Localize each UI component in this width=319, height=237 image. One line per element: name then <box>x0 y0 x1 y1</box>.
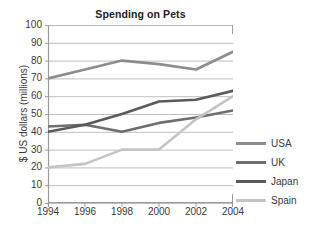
x-axis-tick-labels: 199419961998200020022004 <box>0 207 319 227</box>
series-line-usa <box>48 52 233 79</box>
y-tick-label: 90 <box>8 38 42 48</box>
y-tick-label: 60 <box>8 91 42 101</box>
y-tick-label: 80 <box>8 56 42 66</box>
legend-label: USA <box>271 139 292 149</box>
plot-area <box>48 25 233 203</box>
chart-legend: USAUKJapanSpain <box>236 134 318 210</box>
legend-label: Spain <box>271 196 297 206</box>
x-tick-label: 1996 <box>65 207 105 217</box>
y-axis-tick-labels: 0102030405060708090100 <box>0 0 44 237</box>
y-tick-label: 100 <box>8 20 42 30</box>
x-tick-label: 2002 <box>176 207 216 217</box>
chart-title: Spending on Pets <box>48 8 233 20</box>
legend-swatch-uk-icon <box>236 161 266 164</box>
legend-item-usa[interactable]: USA <box>236 134 318 153</box>
y-tick-label: 40 <box>8 127 42 137</box>
x-tick-label: 2000 <box>139 207 179 217</box>
legend-swatch-japan-icon <box>236 180 266 183</box>
y-tick-label: 50 <box>8 109 42 119</box>
legend-swatch-usa-icon <box>236 142 266 145</box>
legend-item-uk[interactable]: UK <box>236 153 318 172</box>
series-line-japan <box>48 91 233 132</box>
legend-swatch-spain-icon <box>236 199 266 202</box>
x-tick-label: 1998 <box>102 207 142 217</box>
plot-series-lines <box>48 25 233 203</box>
legend-item-spain[interactable]: Spain <box>236 191 318 210</box>
legend-item-japan[interactable]: Japan <box>236 172 318 191</box>
legend-label: UK <box>271 158 285 168</box>
y-tick-label: 10 <box>8 180 42 190</box>
y-tick-label: 70 <box>8 73 42 83</box>
y-tick-label: 30 <box>8 145 42 155</box>
y-tick-label: 20 <box>8 162 42 172</box>
x-tick-label: 1994 <box>28 207 68 217</box>
line-chart: Spending on Pets $ US dollars (millions)… <box>0 0 319 237</box>
legend-label: Japan <box>271 177 298 187</box>
